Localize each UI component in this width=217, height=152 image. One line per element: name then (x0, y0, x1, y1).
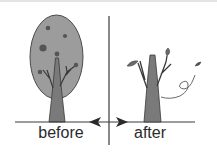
after-tree (127, 48, 201, 122)
fruit (46, 26, 51, 31)
fruit (55, 52, 60, 57)
before-tree (30, 15, 83, 122)
falling-leaf-icon (195, 62, 201, 66)
tree-trunk (144, 55, 161, 122)
before-label: before (31, 124, 91, 142)
wind-trail (161, 75, 195, 98)
tree-branch-right (157, 56, 171, 86)
fruit (38, 70, 43, 75)
tree-branch-left (138, 61, 147, 88)
fruit (39, 44, 46, 51)
fruit (74, 63, 78, 67)
leaf-icon (127, 61, 138, 66)
after-label: after (120, 124, 180, 142)
leaf-icon (166, 48, 170, 56)
fruit (63, 34, 67, 38)
